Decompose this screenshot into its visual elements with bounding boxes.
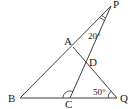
label-D: D xyxy=(89,56,97,68)
label-Q: Q xyxy=(120,92,128,104)
label-A: A xyxy=(64,35,72,47)
angle-arc-Q xyxy=(108,91,111,98)
angle-label-P: 20° xyxy=(88,31,101,41)
label-P: P xyxy=(113,0,119,10)
segment-BP xyxy=(20,6,111,98)
angle-label-Q: 50° xyxy=(93,87,106,97)
geometry-diagram: P A D B C Q 20° 50° xyxy=(0,0,140,109)
label-B: B xyxy=(8,92,15,104)
angle-arc-P-inner xyxy=(102,16,106,19)
angle-arc-P xyxy=(100,18,105,21)
label-C: C xyxy=(65,98,72,109)
